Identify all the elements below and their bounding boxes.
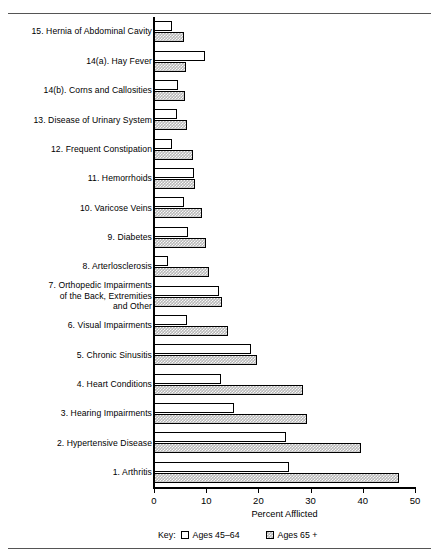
bar-ages-65-plus bbox=[154, 238, 206, 248]
bar-ages-45-64 bbox=[154, 197, 184, 207]
bar-ages-45-64 bbox=[154, 286, 219, 296]
bar-ages-65-plus bbox=[154, 473, 399, 483]
x-axis-tick-label: 0 bbox=[139, 495, 169, 506]
chart-category-row: 14(a). Hay Fever bbox=[0, 46, 439, 75]
bar-ages-45-64 bbox=[154, 462, 289, 472]
chart-category-row: 6. Visual Impairments bbox=[0, 311, 439, 340]
bar-ages-45-64 bbox=[154, 432, 286, 442]
x-axis-tick-label: 50 bbox=[400, 495, 430, 506]
bar-ages-45-64 bbox=[154, 315, 187, 325]
bar-ages-45-64 bbox=[154, 227, 188, 237]
category-label: 14(a). Hay Fever bbox=[86, 56, 152, 66]
category-label: 3. Hearing Impairments bbox=[61, 408, 152, 418]
category-label: 7. Orthopedic Impairments of the Back, E… bbox=[49, 280, 152, 311]
legend: Key: Ages 45–64 Ages 65 + bbox=[158, 530, 317, 540]
bar-ages-65-plus bbox=[154, 326, 228, 336]
bar-ages-45-64 bbox=[154, 168, 194, 178]
chart-category-row: 14(b). Corns and Callosities bbox=[0, 76, 439, 105]
chart-category-row: 8. Arterlosclerosis bbox=[0, 252, 439, 281]
chart-category-row: 3. Hearing Impairments bbox=[0, 399, 439, 428]
bar-ages-65-plus bbox=[154, 120, 187, 130]
x-axis-tick bbox=[363, 487, 364, 493]
bar-ages-65-plus bbox=[154, 150, 193, 160]
legend-swatch-shaded-icon bbox=[266, 531, 274, 539]
legend-label-ages-45-64: Ages 45–64 bbox=[193, 530, 240, 540]
legend-entry-ages-45-64: Ages 45–64 bbox=[181, 530, 240, 540]
bar-ages-65-plus bbox=[154, 208, 202, 218]
legend-swatch-white-icon bbox=[181, 531, 189, 539]
chart-category-row: 12. Frequent Constipation bbox=[0, 135, 439, 164]
bar-ages-45-64 bbox=[154, 51, 205, 61]
chart-category-row: 15. Hernia of Abdominal Cavity bbox=[0, 17, 439, 46]
bar-ages-45-64 bbox=[154, 21, 172, 31]
top-divider-rule bbox=[8, 13, 431, 14]
category-label: 14(b). Corns and Callosities bbox=[44, 85, 152, 95]
category-label: 9. Diabetes bbox=[108, 232, 152, 242]
chart-category-row: 4. Heart Conditions bbox=[0, 370, 439, 399]
bar-ages-65-plus bbox=[154, 414, 307, 424]
legend-key-word: Key: bbox=[158, 530, 176, 540]
category-label: 12. Frequent Constipation bbox=[51, 144, 152, 154]
chart-category-row: 7. Orthopedic Impairments of the Back, E… bbox=[0, 281, 439, 310]
x-axis-tick-label: 30 bbox=[296, 495, 326, 506]
x-axis-tick bbox=[258, 487, 259, 493]
category-label: 6. Visual Impairments bbox=[68, 320, 152, 330]
x-axis-label: Percent Afflicted bbox=[153, 509, 416, 519]
bar-ages-45-64 bbox=[154, 109, 177, 119]
x-axis-tick-label: 10 bbox=[191, 495, 221, 506]
x-axis-tick bbox=[154, 487, 155, 493]
legend-entry-ages-65-plus: Ages 65 + bbox=[266, 530, 318, 540]
x-axis-line bbox=[153, 487, 416, 489]
bar-ages-45-64 bbox=[154, 374, 221, 384]
category-label: 2. Hypertensive Disease bbox=[57, 438, 152, 448]
bar-ages-45-64 bbox=[154, 256, 168, 266]
category-label: 8. Arterlosclerosis bbox=[83, 261, 152, 271]
chart-category-row: 9. Diabetes bbox=[0, 223, 439, 252]
bar-ages-65-plus bbox=[154, 297, 222, 307]
chart-category-row: 13. Disease of Urinary System bbox=[0, 105, 439, 134]
bar-ages-45-64 bbox=[154, 403, 234, 413]
x-axis-tick-label: 40 bbox=[348, 495, 378, 506]
category-label: 11. Hemorrhoids bbox=[88, 173, 152, 183]
legend-label-ages-65-plus: Ages 65 + bbox=[278, 530, 318, 540]
bar-ages-65-plus bbox=[154, 443, 361, 453]
bar-ages-65-plus bbox=[154, 267, 209, 277]
bar-ages-45-64 bbox=[154, 80, 178, 90]
category-label: 13. Disease of Urinary System bbox=[33, 115, 152, 125]
x-axis-tick bbox=[206, 487, 207, 493]
bottom-divider-rule bbox=[8, 548, 431, 549]
bar-ages-45-64 bbox=[154, 344, 251, 354]
x-axis-tick bbox=[415, 487, 416, 493]
bar-ages-65-plus bbox=[154, 355, 257, 365]
plot-area: 15. Hernia of Abdominal Cavity14(a). Hay… bbox=[0, 17, 439, 487]
bar-ages-45-64 bbox=[154, 139, 172, 149]
chart-category-row: 5. Chronic Sinusitis bbox=[0, 340, 439, 369]
chart-category-row: 1. Arthritis bbox=[0, 458, 439, 487]
category-label: 4. Heart Conditions bbox=[77, 379, 152, 389]
bar-ages-65-plus bbox=[154, 179, 195, 189]
bar-ages-65-plus bbox=[154, 62, 186, 72]
x-axis-tick bbox=[311, 487, 312, 493]
category-label: 15. Hernia of Abdominal Cavity bbox=[31, 26, 152, 36]
bar-ages-65-plus bbox=[154, 385, 303, 395]
bar-ages-65-plus bbox=[154, 91, 185, 101]
category-label: 10. Varicose Veins bbox=[80, 203, 152, 213]
category-label: 1. Arthritis bbox=[113, 467, 152, 477]
chart-category-row: 10. Varicose Veins bbox=[0, 193, 439, 222]
x-axis-tick-label: 20 bbox=[243, 495, 273, 506]
chart-root: 15. Hernia of Abdominal Cavity14(a). Hay… bbox=[0, 0, 439, 556]
chart-category-row: 2. Hypertensive Disease bbox=[0, 428, 439, 457]
category-label: 5. Chronic Sinusitis bbox=[77, 350, 152, 360]
bar-ages-65-plus bbox=[154, 32, 184, 42]
chart-category-row: 11. Hemorrhoids bbox=[0, 164, 439, 193]
